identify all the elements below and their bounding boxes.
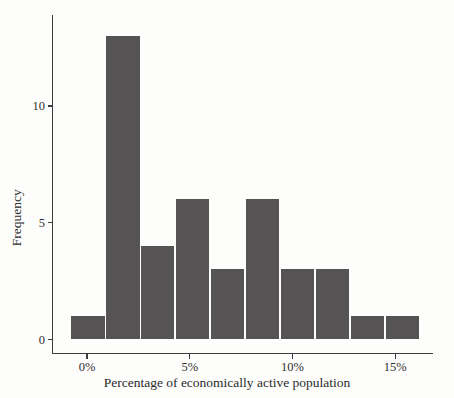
x-axis-line <box>52 353 433 354</box>
histogram-bar <box>71 316 104 339</box>
y-tick-mark <box>48 339 53 340</box>
x-tick-mark <box>189 354 190 359</box>
y-tick-label: 10 <box>15 100 45 113</box>
histogram-bar <box>141 246 174 339</box>
histogram-bar <box>351 316 384 339</box>
histogram-bar <box>211 269 244 339</box>
y-axis-line <box>52 15 53 354</box>
histogram-bar <box>246 199 279 339</box>
x-tick-mark <box>292 354 293 359</box>
x-tick-label: 5% <box>168 361 212 374</box>
histogram-bar <box>176 199 209 339</box>
histogram-figure: 0510 0%5%10%15% Frequency Percentage of … <box>0 0 454 398</box>
histogram-bar <box>386 316 419 339</box>
x-tick-label: 10% <box>271 361 315 374</box>
y-tick-mark <box>48 222 53 223</box>
y-tick-mark <box>48 105 53 106</box>
x-tick-label: 0% <box>65 361 109 374</box>
histogram-bar <box>106 36 139 340</box>
histogram-bar <box>316 269 349 339</box>
x-tick-mark <box>395 354 396 359</box>
x-tick-label: 15% <box>373 361 417 374</box>
x-tick-mark <box>86 354 87 359</box>
y-axis-title: Frequency <box>10 158 24 278</box>
histogram-bar <box>281 269 314 339</box>
x-axis-title: Percentage of economically active popula… <box>0 376 454 390</box>
y-tick-label: 0 <box>15 334 45 347</box>
